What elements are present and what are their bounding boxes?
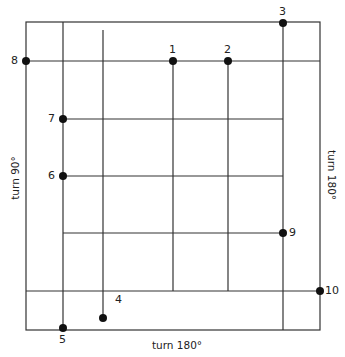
point-dot-3 (279, 19, 287, 27)
side-label-right: turn 180° (327, 150, 338, 200)
point-label-2: 2 (224, 44, 231, 55)
point-dot-10 (316, 287, 324, 295)
point-label-9: 9 (289, 227, 296, 238)
point-dot-5 (59, 324, 67, 332)
point-dot-7 (59, 115, 67, 123)
point-label-5: 5 (59, 334, 66, 345)
point-dot-4 (99, 314, 107, 322)
point-label-10: 10 (325, 285, 339, 296)
side-label-bottom: turn 180° (152, 340, 202, 351)
grid-lines (26, 22, 320, 330)
point-dot-2 (224, 57, 232, 65)
point-label-8: 8 (11, 55, 18, 66)
point-label-3: 3 (279, 6, 286, 17)
point-label-4: 4 (115, 294, 122, 305)
point-dot-9 (279, 229, 287, 237)
point-dot-8 (22, 57, 30, 65)
point-label-7: 7 (48, 113, 55, 124)
point-dot-6 (59, 172, 67, 180)
side-label-left: turn 90° (10, 156, 21, 200)
point-label-1: 1 (169, 44, 176, 55)
point-label-6: 6 (48, 170, 55, 181)
point-dot-1 (169, 57, 177, 65)
